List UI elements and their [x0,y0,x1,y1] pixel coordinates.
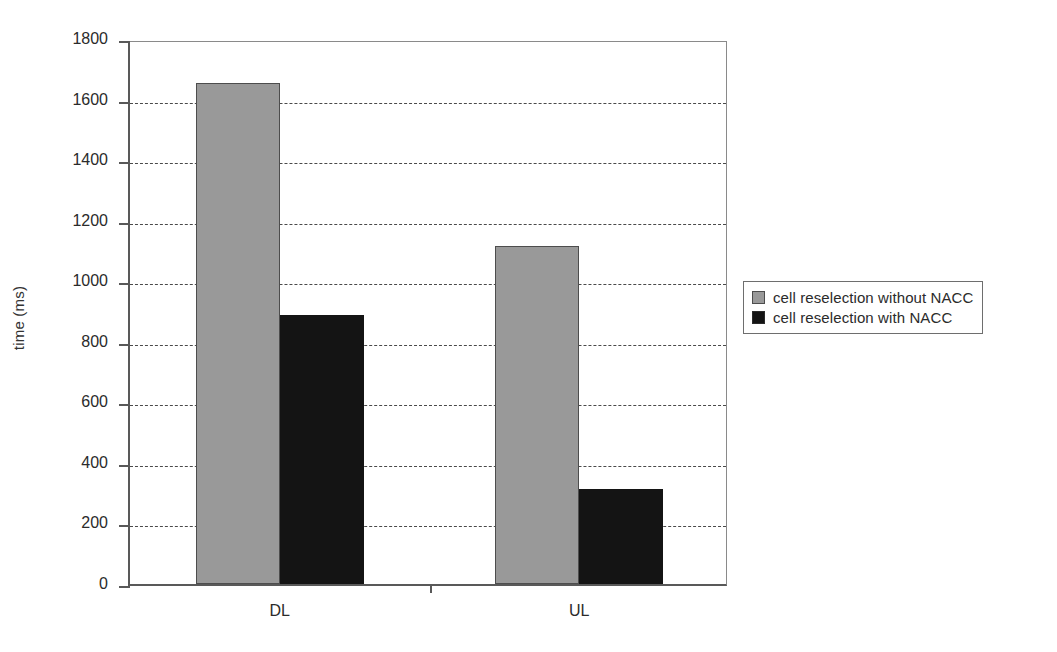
bar [495,246,579,584]
dark-square-icon [752,311,765,324]
y-tick-label: 1800 [72,30,108,48]
legend-item: cell reselection without NACC [752,287,973,307]
y-tick-label: 1600 [72,91,108,109]
y-tick-mark [119,283,130,285]
y-tick-label: 200 [81,514,108,532]
y-tick-mark [119,344,130,346]
legend-item-label: cell reselection with NACC [773,309,952,326]
y-tick-label: 800 [81,333,108,351]
legend-item: cell reselection with NACC [752,307,973,327]
x-axis-category-label: UL [539,602,619,620]
plot-area: 020040060080010001200140016001800 DLUL [128,41,727,586]
y-tick-mark [119,41,130,43]
bar-chart-figure: time (ms) 020040060080010001200140016001… [0,0,1057,652]
y-tick-label: 1400 [72,151,108,169]
y-tick-label: 400 [81,454,108,472]
x-axis-tick-mark [430,584,432,593]
y-tick-label: 0 [99,575,108,593]
y-tick-mark [119,102,130,104]
legend-item-label: cell reselection without NACC [773,289,973,306]
y-tick-mark [119,223,130,225]
y-tick-mark [119,525,130,527]
y-tick-mark [119,586,130,588]
bar [280,315,364,584]
y-tick-mark [119,465,130,467]
chart-legend: cell reselection without NACC cell resel… [743,281,983,334]
y-tick-label: 1000 [72,272,108,290]
y-tick-label: 600 [81,393,108,411]
y-tick-label: 1200 [72,212,108,230]
bar [196,83,280,584]
y-tick-mark [119,404,130,406]
bar [579,489,663,584]
light-gray-square-icon [752,291,765,304]
y-tick-mark [119,162,130,164]
y-axis-title: time (ms) [10,238,34,398]
x-axis-category-label: DL [240,602,320,620]
